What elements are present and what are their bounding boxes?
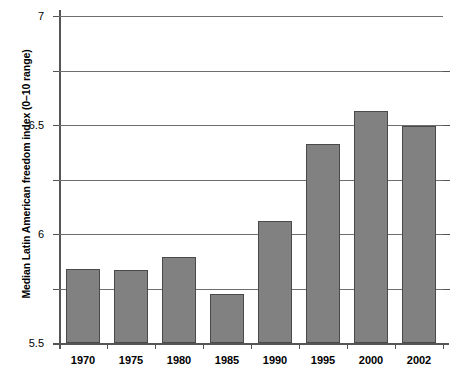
bar-2002 <box>402 126 436 343</box>
x-tick-label-1985: 1985 <box>215 354 239 366</box>
bar-1990 <box>258 221 292 343</box>
y-tick-mark-right <box>443 180 450 181</box>
x-tick-mark <box>155 343 156 349</box>
x-tick-mark <box>251 343 252 349</box>
x-tick-mark <box>299 343 300 349</box>
bar-1985 <box>210 294 244 343</box>
y-tick-mark: 5 <box>53 234 59 235</box>
x-tick-label-1995: 1995 <box>311 354 335 366</box>
y-tick-mark: 6.5 <box>53 71 59 72</box>
bar-chart: Median Latin American freedom index (0–1… <box>0 0 456 376</box>
x-tick-label-2000: 2000 <box>359 354 383 366</box>
gridline <box>59 16 443 17</box>
y-tick-mark-right <box>443 71 450 72</box>
plot-area: 44.555.566.57 19701975198019851990199520… <box>59 16 443 343</box>
y-tick-mark: 5.5 <box>53 180 59 181</box>
x-tick-label-1970: 1970 <box>71 354 95 366</box>
bar-1980 <box>162 257 196 343</box>
y-tick-label: 5.5 <box>29 337 44 349</box>
x-tick-label-1975: 1975 <box>119 354 143 366</box>
y-tick-mark-right <box>443 125 450 126</box>
x-tick-mark <box>395 343 396 349</box>
x-tick-mark <box>203 343 204 349</box>
y-tick-label: 6 <box>38 228 44 240</box>
x-tick-label-1980: 1980 <box>167 354 191 366</box>
y-tick-mark-right <box>443 234 450 235</box>
x-tick-label-1990: 1990 <box>263 354 287 366</box>
x-tick-label-2002: 2002 <box>407 354 431 366</box>
y-tick-label: 6.5 <box>29 119 44 131</box>
y-tick-label: 7 <box>38 10 44 22</box>
bar-1975 <box>114 270 148 343</box>
bar-2000 <box>354 111 388 343</box>
x-tick-mark <box>107 343 108 349</box>
y-tick-mark: 4 <box>53 343 59 344</box>
y-axis-title: Median Latin American freedom index (0–1… <box>20 9 32 339</box>
y-tick-mark: 4.5 <box>53 289 59 290</box>
bar-1970 <box>66 269 100 343</box>
bar-1995 <box>306 144 340 343</box>
gridline <box>59 71 443 72</box>
y-tick-mark: 7 <box>53 16 59 17</box>
x-tick-mark <box>443 343 444 349</box>
y-tick-mark-right <box>443 289 450 290</box>
y-tick-mark: 6 <box>53 125 59 126</box>
x-tick-mark <box>347 343 348 349</box>
